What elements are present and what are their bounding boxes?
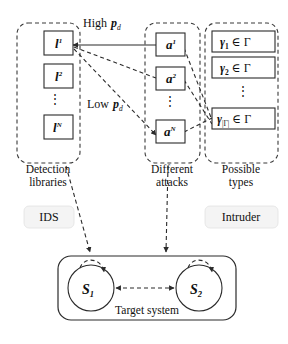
state-s2[interactable] <box>176 265 222 311</box>
group-detection-caption-line2: libraries <box>29 176 67 188</box>
attacks-ellipsis: ⋮ <box>164 94 176 108</box>
state-s1[interactable] <box>68 265 114 311</box>
edge-l1-to-a2 <box>74 47 156 78</box>
diagram-canvas: l1 l2 ⋮ lN Detection libraries a1 a2 ⋮ a… <box>0 0 288 344</box>
group-detection-caption-line1: Detection <box>26 163 71 175</box>
edge-label-high-pd: Highpd <box>83 16 121 32</box>
group-attacks-caption-line2: attacks <box>156 176 188 188</box>
group-types-caption-line1: Possible <box>222 163 260 175</box>
edge-aN-to-gamma1 <box>184 118 212 132</box>
types-ellipsis: ⋮ <box>237 84 249 98</box>
group-attacks-caption-line1: Different <box>151 163 194 175</box>
group-types-caption-line2: types <box>229 176 254 189</box>
node-type-1-label: γ1∈ Γ <box>220 35 251 51</box>
edge-low-pd <box>74 49 156 135</box>
actor-ids-label: IDS <box>39 210 58 224</box>
figure-container: l1 l2 ⋮ lN Detection libraries a1 a2 ⋮ a… <box>0 0 288 344</box>
actor-intruder-label: Intruder <box>222 210 261 224</box>
node-type-2-label: γ2∈ Γ <box>220 61 251 77</box>
target-system-caption: Target system <box>115 304 179 317</box>
edge-a1-to-gamma-last <box>184 48 212 120</box>
edge-label-low-pd: Lowpd <box>87 97 123 113</box>
edge-a2-to-gamma2 <box>184 80 212 124</box>
detection-ellipsis: ⋮ <box>49 92 61 106</box>
